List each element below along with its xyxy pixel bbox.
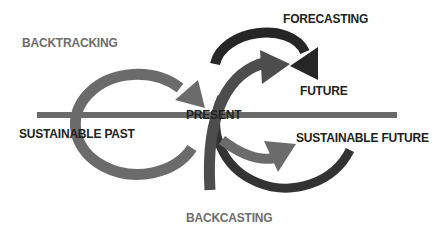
label-sustainable-future: SUSTAINABLE FUTURE (296, 131, 429, 145)
label-future: FUTURE (300, 84, 347, 98)
label-backcasting: BACKCASTING (186, 211, 272, 225)
backtracking-arrow (75, 74, 205, 174)
label-backtracking: BACKTRACKING (22, 36, 118, 50)
label-present: PRESENT (186, 108, 241, 122)
label-forecasting: FORECASTING (283, 12, 368, 26)
label-sustainable-past: SUSTAINABLE PAST (19, 127, 135, 141)
